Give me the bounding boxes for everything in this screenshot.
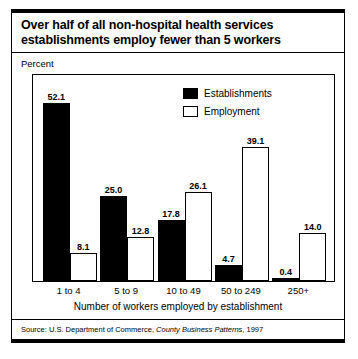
- bar-value-label: 14.0: [293, 222, 332, 232]
- bar-rect: [43, 103, 70, 281]
- bar-value-label: 39.1: [236, 136, 275, 146]
- page-title-line-1: Over half of all non-hospital health ser…: [21, 18, 336, 33]
- bar-rect: [158, 220, 185, 281]
- page-title-line-2: establishments employ fewer than 5 worke…: [21, 33, 336, 48]
- bar-rect: [242, 147, 269, 281]
- bar-rect: [70, 253, 97, 281]
- chart-body: Percent Establishments Employment 52.18.…: [12, 53, 344, 343]
- bar-value-label: 25.0: [94, 185, 133, 195]
- bar-rect: [185, 192, 212, 281]
- bar-value-label: 8.1: [64, 242, 103, 252]
- legend-item-establishments: Establishments: [183, 86, 272, 101]
- source-prefix: Source: U.S. Department of Commerce,: [21, 325, 154, 334]
- bar-rect: [100, 196, 127, 281]
- source-suffix: , 1997: [242, 325, 263, 334]
- bar-group: 0.414.0: [272, 75, 326, 281]
- x-axis-tick-labels: 1 to 45 to 910 to 4950 to 249250+: [32, 285, 335, 298]
- x-axis-tick-label: 5 to 9: [99, 285, 153, 297]
- x-axis-tick-label: 50 to 249: [214, 285, 268, 297]
- legend-item-employment: Employment: [183, 104, 272, 119]
- x-axis-tick-label: 10 to 49: [157, 285, 211, 297]
- plot-area: Establishments Employment 52.18.125.012.…: [32, 74, 335, 282]
- y-axis-label: Percent: [21, 58, 54, 69]
- x-axis-tick-label: 250+: [271, 285, 325, 297]
- bar-value-label: 52.1: [37, 92, 76, 102]
- bar-group: 52.18.1: [43, 75, 97, 281]
- legend-swatch-establishments-icon: [183, 88, 198, 99]
- source-divider: [12, 319, 344, 320]
- legend-swatch-employment-icon: [183, 106, 198, 117]
- bar-value-label: 12.8: [121, 226, 160, 236]
- bar-rect: [272, 278, 299, 281]
- x-axis-tick-label: 1 to 4: [42, 285, 96, 297]
- title-block: Over half of all non-hospital health ser…: [12, 13, 344, 53]
- x-axis-title: Number of workers employed by establishm…: [12, 301, 344, 313]
- figure-card: Over half of all non-hospital health ser…: [11, 9, 345, 343]
- legend: Establishments Employment: [183, 86, 272, 122]
- bar-value-label: 26.1: [179, 181, 218, 191]
- source-note: Source: U.S. Department of Commerce, Cou…: [21, 325, 263, 335]
- bar-rect: [215, 265, 242, 281]
- bar-rect: [127, 237, 154, 281]
- bar-group: 25.012.8: [100, 75, 154, 281]
- bar-rect: [299, 233, 326, 281]
- legend-label-establishments: Establishments: [204, 88, 272, 99]
- plot-inner: Establishments Employment 52.18.125.012.…: [33, 75, 334, 281]
- legend-label-employment: Employment: [204, 106, 260, 117]
- source-publication: County Business Patterns: [156, 325, 242, 334]
